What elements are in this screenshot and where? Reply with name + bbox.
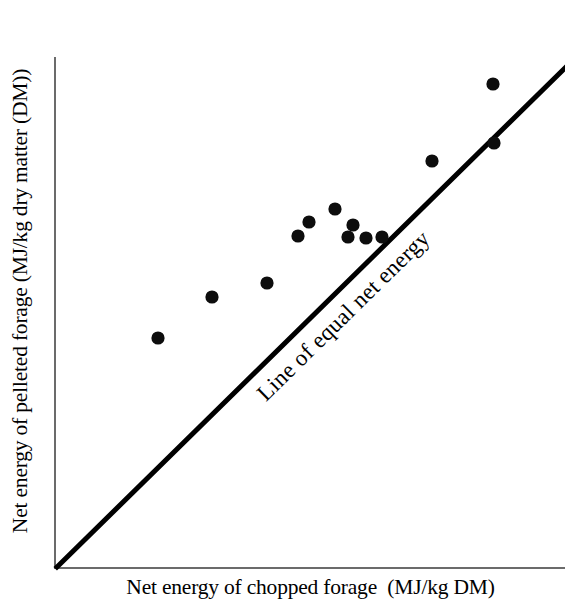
data-point xyxy=(205,290,218,303)
data-point xyxy=(487,136,500,149)
data-point xyxy=(260,276,273,289)
data-point xyxy=(486,77,499,90)
scatter-plot-figure: Net energy of pelleted forage (MJ/kg dry… xyxy=(0,0,565,602)
data-point xyxy=(359,231,372,244)
data-point xyxy=(302,215,315,228)
data-point xyxy=(328,202,341,215)
data-point xyxy=(375,230,388,243)
plot-canvas xyxy=(0,0,565,602)
data-point xyxy=(291,229,304,242)
data-point xyxy=(341,230,354,243)
data-point xyxy=(346,218,359,231)
data-point xyxy=(151,331,164,344)
x-axis-label: Net energy of chopped forage (MJ/kg DM) xyxy=(56,572,565,602)
data-point xyxy=(425,154,438,167)
